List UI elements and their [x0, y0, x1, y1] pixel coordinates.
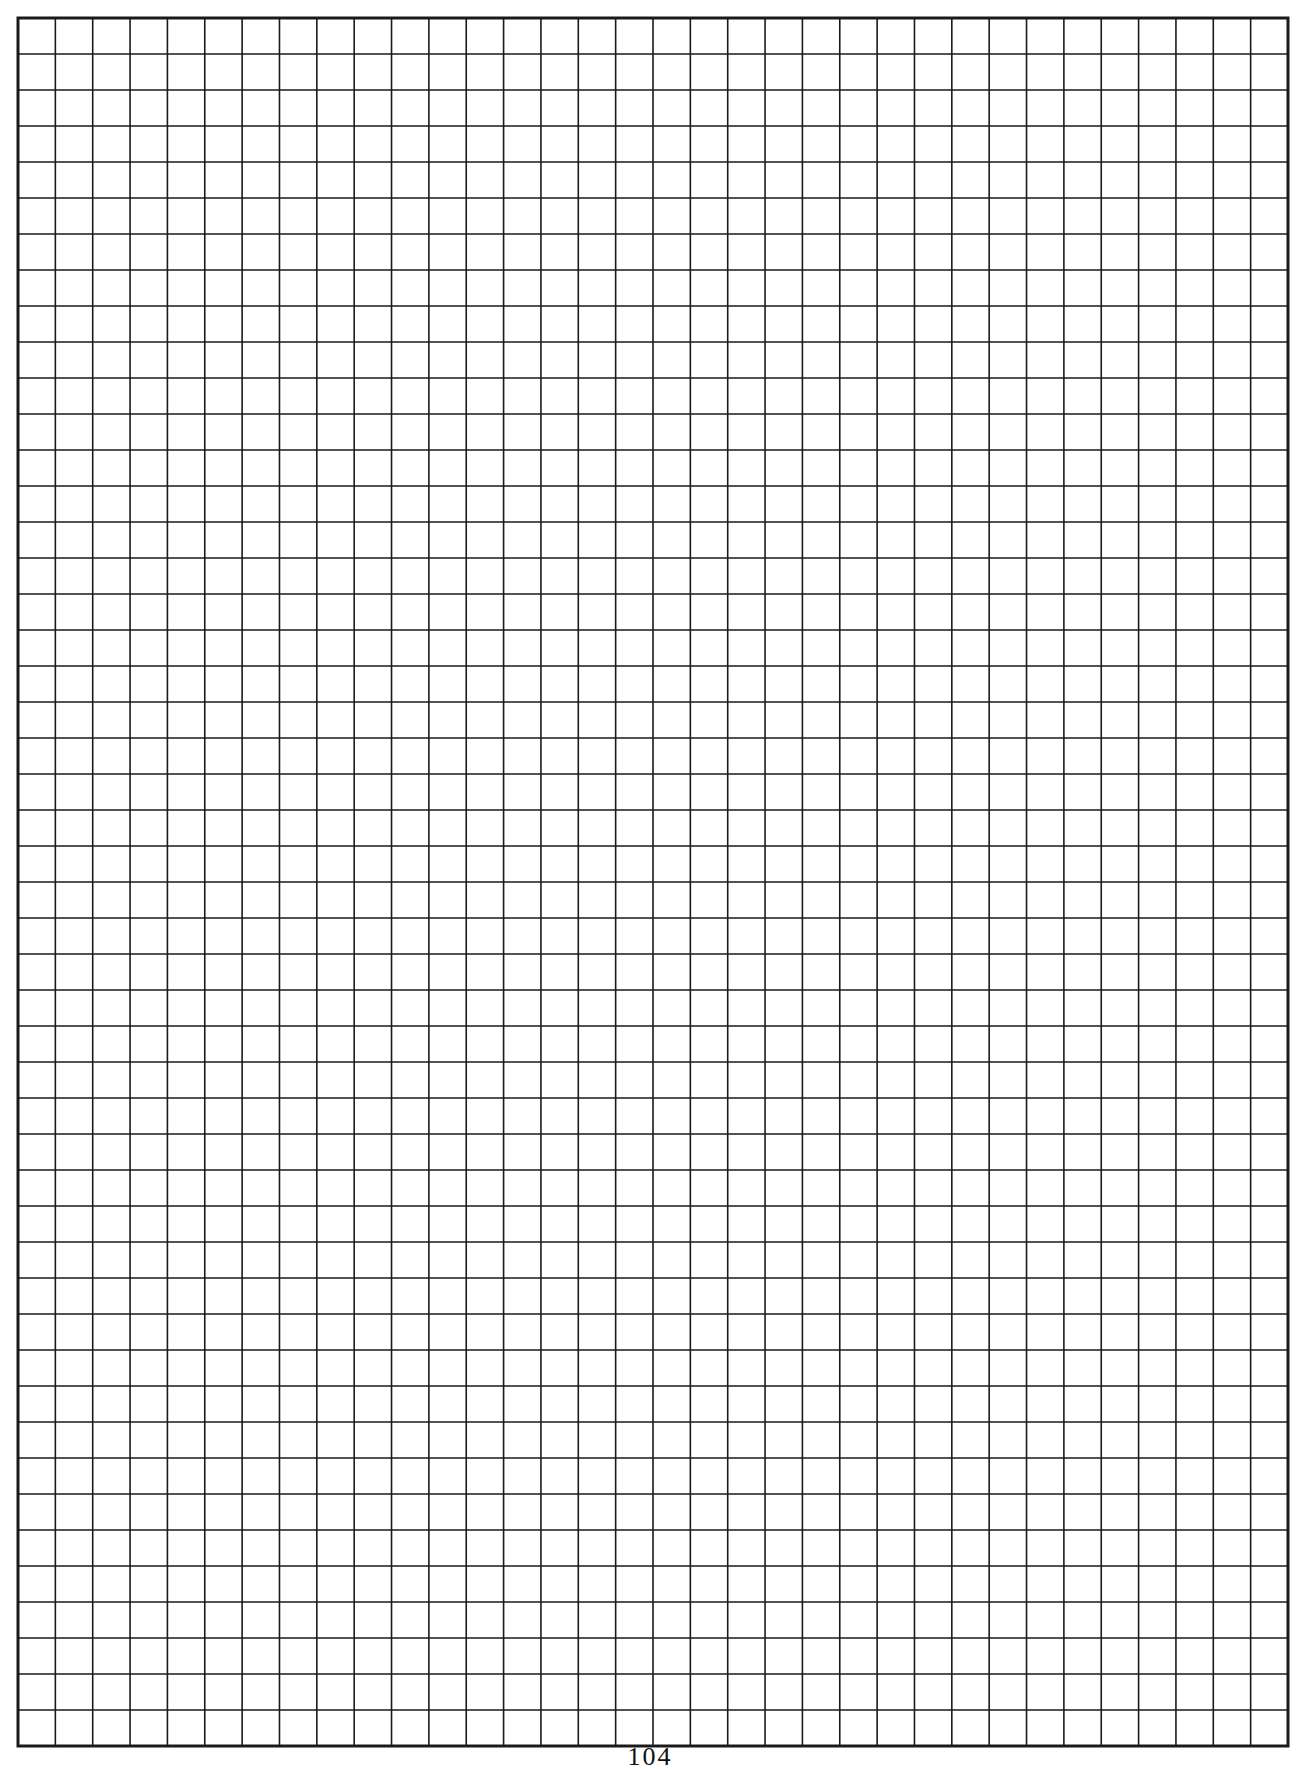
page-number: 104: [0, 1744, 1300, 1769]
